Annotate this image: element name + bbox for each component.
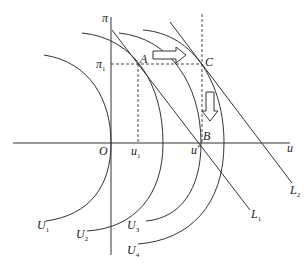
- u4-curve-base: U: [127, 243, 136, 257]
- u3-curve-base: U: [127, 218, 136, 232]
- u1-curve-sub: 1: [46, 226, 50, 234]
- u1-curve-base: U: [37, 218, 46, 232]
- u1-label: u1: [131, 145, 141, 160]
- u2-curve-base: U: [76, 227, 85, 241]
- pi1-sub: 1: [102, 65, 106, 73]
- down-arrow-icon: [202, 92, 218, 121]
- line-l2-label: L2: [290, 184, 300, 199]
- ustar-sup: *: [197, 143, 201, 151]
- origin-label: O: [99, 145, 108, 157]
- u1-sub: 1: [137, 152, 141, 160]
- curve-u1-label: U1: [37, 219, 49, 234]
- l2-sub: 2: [297, 191, 301, 199]
- curve-u2-label: U2: [76, 228, 88, 243]
- u4-curve-sub: 4: [136, 251, 140, 259]
- l1-sub: 1: [258, 215, 262, 223]
- point-b-label: B: [203, 130, 210, 142]
- line-l2: [170, 22, 292, 183]
- u-axis-label: u: [287, 142, 293, 154]
- curve-u3: [119, 33, 201, 221]
- curve-u2: [82, 33, 163, 231]
- line-l1-label: L1: [251, 208, 261, 223]
- curve-u1: [44, 55, 111, 221]
- pi-axis-label: π: [102, 12, 108, 24]
- curve-u4-label: U4: [127, 244, 139, 259]
- pi1-label: π1: [96, 58, 106, 73]
- right-arrow-icon: [153, 47, 186, 63]
- point-a-label: A: [140, 53, 147, 65]
- l2-base: L: [290, 183, 297, 197]
- ustar-label: u*: [191, 144, 201, 156]
- diagram-canvas: π u O π1 u1 u* A C B U1 U2 U3 U4 L1 L2: [0, 0, 308, 266]
- point-c-label: C: [205, 56, 213, 68]
- l1-base: L: [251, 207, 258, 221]
- curve-u3-label: U3: [127, 219, 139, 234]
- u2-curve-sub: 2: [85, 235, 89, 243]
- u3-curve-sub: 3: [136, 226, 140, 234]
